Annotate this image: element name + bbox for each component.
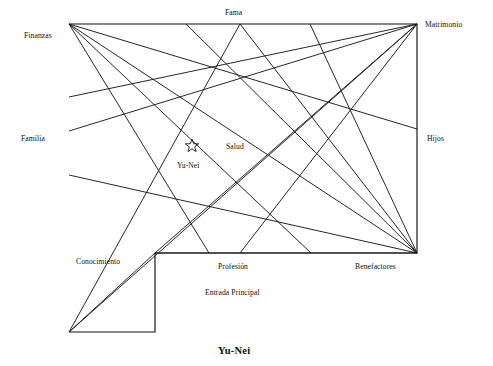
sight-line <box>69 24 311 253</box>
zone-label-matrimonio: Matrimonio <box>425 21 462 29</box>
zone-label-hijos: Hijos <box>427 135 444 143</box>
zone-label-conocimiento: Conocimiento <box>76 258 120 266</box>
zone-label-finanzas: Finanzas <box>24 32 52 40</box>
sight-line <box>69 24 417 253</box>
yu-nei-floorplan-diagram: Fama Matrimonio Finanzas Familia Hijos S… <box>0 0 493 366</box>
figure-caption: Yu-Nei <box>218 345 250 356</box>
zone-label-entrada-principal: Entrada Principal <box>205 289 260 297</box>
sight-line <box>69 24 417 97</box>
zone-label-benefactores: Benefactores <box>355 263 396 271</box>
floorplan-svg <box>0 0 493 366</box>
center-marker-label: Yu-Nei <box>177 162 200 170</box>
sight-line <box>69 24 417 332</box>
zone-label-profesion: Profesión <box>218 263 248 271</box>
sight-line <box>69 24 209 253</box>
sight-line <box>310 24 417 253</box>
sight-line <box>69 175 417 253</box>
zone-label-familia: Familia <box>21 135 45 143</box>
zone-label-fama: Fama <box>225 9 242 17</box>
zone-label-salud: Salud <box>226 143 244 151</box>
sight-lines-group <box>69 24 417 332</box>
